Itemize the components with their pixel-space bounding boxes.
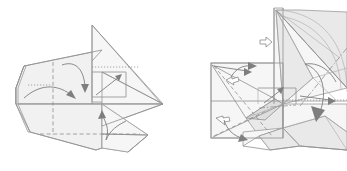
- diagram-canvas: [0, 0, 347, 171]
- paper-bottom-right-flap-2: [102, 134, 148, 152]
- origami-diagram: [0, 0, 347, 171]
- panel-left: [16, 25, 163, 152]
- paper-lower-left-wing: [16, 104, 102, 150]
- push-arrow-center-icon: [260, 37, 272, 47]
- panel-right: [211, 8, 347, 150]
- paper-upper-left-wing: [16, 50, 102, 104]
